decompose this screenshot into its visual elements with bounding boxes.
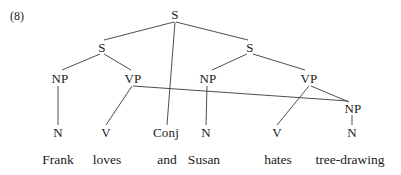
tree-edge-s2-to-np2 (212, 54, 247, 70)
tree-node-v2: V (272, 126, 282, 139)
tree-node-n2: N (201, 126, 211, 139)
tree-word-hates: hates (264, 153, 292, 167)
tree-edge-s1-to-np1 (62, 54, 100, 70)
tree-word-frank: Frank (42, 153, 74, 167)
tree-edges-canvas (0, 0, 401, 175)
tree-edge-s0-to-conj (167, 22, 175, 125)
tree-node-v1: V (101, 126, 111, 139)
syntax-tree-figure: (8) SSSNPVPNPVPNPNVConjNVN Franklovesand… (0, 0, 401, 175)
tree-edge-s2-to-vp2 (253, 54, 305, 70)
tree-node-s1: S (98, 41, 105, 54)
tree-edge-vp2-to-v2 (277, 86, 309, 125)
tree-node-np2: NP (199, 72, 216, 85)
tree-edge-vp1-to-v1 (106, 86, 132, 125)
tree-node-s0: S (171, 8, 178, 21)
tree-node-vp1: VP (124, 72, 141, 85)
tree-node-conj: Conj (153, 126, 179, 139)
tree-edge-np2-to-n2 (206, 86, 207, 125)
tree-node-n3: N (347, 126, 357, 139)
tree-node-s2: S (246, 41, 253, 54)
tree-word-and: and (157, 153, 177, 167)
tree-edge-s0-to-s2 (176, 22, 248, 40)
tree-node-vp2: VP (300, 72, 317, 85)
tree-node-n1: N (53, 126, 63, 139)
tree-edge-s0-to-s1 (104, 22, 174, 40)
tree-word-loves: loves (93, 153, 122, 167)
tree-edge-s1-to-vp1 (104, 54, 131, 70)
tree-word-susan: Susan (188, 153, 220, 167)
tree-node-np3: NP (344, 102, 361, 115)
tree-node-np1: NP (51, 72, 68, 85)
tree-word-tree-drawing: tree-drawing (316, 153, 385, 167)
